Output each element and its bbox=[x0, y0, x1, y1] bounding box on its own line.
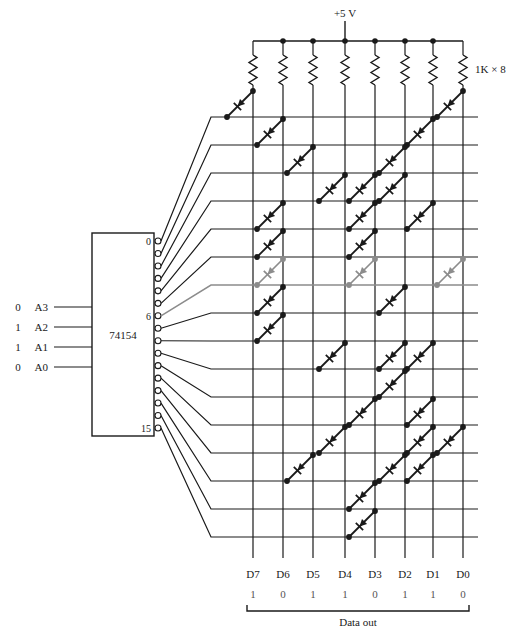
data-bus-label: D5 bbox=[306, 568, 320, 580]
decoder-output-pin bbox=[155, 413, 161, 419]
diode bbox=[254, 200, 286, 232]
decoder-output-pin bbox=[155, 288, 161, 294]
address-input-name: A3 bbox=[35, 301, 49, 313]
pullup-resistor bbox=[459, 55, 467, 85]
diode-connection-dot bbox=[372, 256, 378, 262]
diode bbox=[254, 228, 286, 260]
diode-connection-dot bbox=[372, 480, 378, 486]
diode bbox=[346, 396, 378, 428]
decoder-output-pin bbox=[155, 263, 161, 269]
diode-connection-dot bbox=[402, 172, 408, 178]
data-out-bracket bbox=[247, 605, 469, 611]
decoder-output-pin bbox=[155, 363, 161, 369]
diode bbox=[346, 172, 378, 204]
diode-connection-dot bbox=[346, 198, 352, 204]
diode bbox=[376, 284, 408, 316]
diode bbox=[346, 200, 378, 232]
data-bus-label: D2 bbox=[398, 568, 411, 580]
diode-connection-dot bbox=[402, 368, 408, 374]
diode bbox=[316, 424, 348, 456]
diode-connection-dot bbox=[280, 256, 286, 262]
row-line bbox=[161, 173, 478, 266]
diode-connection-dot bbox=[404, 478, 410, 484]
data-bus-bit-value: 1 bbox=[402, 588, 408, 600]
data-bus-label: D4 bbox=[338, 568, 352, 580]
diode bbox=[404, 340, 436, 372]
diode-connection-dot bbox=[254, 338, 260, 344]
diode-connection-dot bbox=[280, 228, 286, 234]
diode-connection-dot bbox=[372, 228, 378, 234]
decoder-output-pin bbox=[155, 375, 161, 381]
data-bus-bit-value: 1 bbox=[430, 588, 436, 600]
diode-connection-dot bbox=[254, 282, 260, 288]
diode bbox=[346, 228, 378, 260]
diode-connection-dot bbox=[310, 144, 316, 150]
diode-connection-dot bbox=[284, 478, 290, 484]
supply-label: +5 V bbox=[334, 7, 356, 19]
data-bus-bit-value: 0 bbox=[372, 588, 378, 600]
diode bbox=[224, 88, 256, 120]
diode-active bbox=[254, 256, 286, 288]
decoder-output-pin bbox=[155, 325, 161, 331]
diode-connection-dot bbox=[254, 310, 260, 316]
decoder-pin-label: 0 bbox=[146, 236, 151, 247]
diode-connection-dot bbox=[430, 116, 436, 122]
resistor-value-label: 1K × 8 bbox=[475, 63, 506, 75]
decoder-output-pin bbox=[155, 250, 161, 256]
diode bbox=[346, 508, 378, 540]
address-input-value: 0 bbox=[15, 361, 21, 373]
data-bus-bit-value: 0 bbox=[280, 588, 286, 600]
diode bbox=[346, 480, 378, 512]
decoder-pin-label: 6 bbox=[146, 311, 151, 322]
decoder-part-number: 74154 bbox=[109, 329, 137, 341]
row-line-active bbox=[161, 285, 478, 316]
diode-connection-dot bbox=[280, 116, 286, 122]
diode-connection-dot bbox=[434, 282, 440, 288]
address-input-value: 0 bbox=[15, 301, 21, 313]
address-input-value: 1 bbox=[15, 341, 21, 353]
diode-connection-dot bbox=[460, 88, 466, 94]
row-line bbox=[161, 313, 478, 328]
diode-connection-dot bbox=[372, 396, 378, 402]
diode bbox=[376, 172, 408, 204]
data-bus-bit-value: 0 bbox=[460, 588, 466, 600]
diode-connection-dot bbox=[430, 396, 436, 402]
diode-connection-dot bbox=[316, 366, 322, 372]
diode-connection-dot bbox=[430, 200, 436, 206]
diode bbox=[376, 452, 408, 484]
diode-connection-dot bbox=[346, 282, 352, 288]
row-line bbox=[161, 428, 478, 537]
circuit-diagram: +5 V1K × 874154A30A21A11A000615D71D60D51… bbox=[0, 0, 506, 632]
decoder-output-pin bbox=[155, 300, 161, 306]
diode bbox=[404, 200, 436, 232]
wire-layer bbox=[54, 21, 478, 611]
data-bus-label: D3 bbox=[368, 568, 382, 580]
diode bbox=[376, 340, 408, 372]
decoder-output-pin bbox=[155, 400, 161, 406]
diode-connection-dot bbox=[316, 450, 322, 456]
pullup-resistor bbox=[371, 55, 379, 85]
pullup-resistor bbox=[429, 55, 437, 85]
diode-connection-dot bbox=[460, 424, 466, 430]
decoder-output-pin bbox=[155, 350, 161, 356]
diode-connection-dot bbox=[430, 452, 436, 458]
row-line bbox=[161, 117, 478, 241]
diode-connection-dot bbox=[254, 226, 260, 232]
diode bbox=[404, 452, 436, 484]
diode bbox=[316, 340, 348, 372]
diode bbox=[254, 312, 286, 344]
decoder-output-pin bbox=[155, 313, 161, 319]
diode-connection-dot bbox=[280, 284, 286, 290]
address-input-name: A1 bbox=[35, 341, 48, 353]
diode bbox=[254, 116, 286, 148]
diode-connection-dot bbox=[402, 284, 408, 290]
diode bbox=[404, 424, 436, 456]
diode-connection-dot bbox=[316, 198, 322, 204]
diode-connection-dot bbox=[346, 254, 352, 260]
decoder-output-pin bbox=[155, 238, 161, 244]
diode-connection-dot bbox=[402, 144, 408, 150]
diode-connection-dot bbox=[372, 200, 378, 206]
diode-connection-dot bbox=[346, 534, 352, 540]
data-bus-label: D7 bbox=[246, 568, 260, 580]
diode bbox=[404, 396, 436, 428]
